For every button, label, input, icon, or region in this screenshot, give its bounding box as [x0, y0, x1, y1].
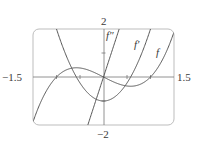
label-f-prime: f′ — [134, 38, 140, 50]
x-max-label: 1.5 — [177, 71, 191, 83]
label-f: f — [156, 46, 161, 58]
chart: −1.5 1.5 2 −2 f″ f′ f — [0, 0, 197, 146]
label-f-double-prime: f″ — [106, 29, 114, 41]
x-min-label: −1.5 — [2, 71, 22, 83]
y-max-label: 2 — [101, 15, 107, 27]
y-min-label: −2 — [97, 128, 109, 140]
